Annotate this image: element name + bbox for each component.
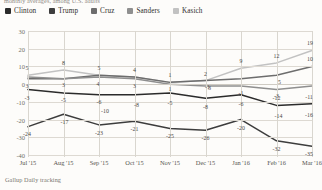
- y-axis-tick-label: 0: [22, 81, 25, 88]
- chart-legend: ClintonTrumpCruzSandersKasich: [5, 7, 203, 15]
- data-point-label: -35: [305, 151, 313, 157]
- data-point-label: -16: [305, 112, 313, 118]
- data-point-label: 4: [97, 81, 100, 87]
- data-point-label: -24: [23, 131, 31, 137]
- data-point-label: -3: [25, 95, 30, 101]
- data-point-label: -5: [61, 97, 66, 103]
- data-point-label: -25: [166, 133, 174, 139]
- y-axis-tick-label: 30: [19, 28, 25, 35]
- x-axis-tick-label: Oct '15: [125, 159, 143, 166]
- data-point-label: 5: [26, 65, 29, 71]
- x-axis-tick-label: Sep '15: [90, 159, 109, 166]
- data-point-label: -10: [101, 108, 109, 114]
- legend-swatch-icon: [91, 8, 97, 14]
- data-point-label: 5: [278, 79, 281, 85]
- data-point-label: -12: [273, 95, 281, 101]
- data-point-label: -26: [202, 135, 210, 141]
- data-point-label: 1: [169, 72, 172, 78]
- legend-label: Trump: [58, 7, 78, 15]
- data-point-label: -20: [237, 125, 245, 131]
- data-point-label: -8: [203, 104, 208, 110]
- legend-item-trump[interactable]: Trump: [49, 7, 78, 15]
- x-axis-tick-label: Jan '16: [232, 159, 250, 166]
- data-point-label: -1: [205, 84, 210, 90]
- data-point-label: 3: [133, 83, 136, 89]
- data-point-label: -11: [305, 94, 313, 100]
- legend-item-sanders[interactable]: Sanders: [127, 7, 159, 15]
- data-point-label: 4: [133, 67, 136, 73]
- data-point-label: 3: [62, 82, 65, 88]
- data-point-label: -32: [273, 146, 281, 152]
- x-axis-tick-label: Dec '15: [196, 159, 215, 166]
- legend-label: Kasich: [182, 7, 203, 15]
- data-point-label: -1: [239, 90, 244, 96]
- legend-item-clinton[interactable]: Clinton: [5, 7, 36, 15]
- x-axis-tick-label: Nov '15: [160, 159, 180, 166]
- data-point-label: -14: [275, 113, 283, 119]
- data-point-label: 10: [307, 56, 313, 62]
- data-point-label: -6: [239, 101, 244, 107]
- legend-swatch-icon: [173, 8, 179, 14]
- data-point-label: 3: [26, 83, 29, 89]
- data-point-label: 5: [98, 65, 101, 71]
- data-point-label: -6: [97, 99, 102, 105]
- legend-swatch-icon: [5, 8, 11, 14]
- legend-item-kasich[interactable]: Kasich: [173, 7, 203, 15]
- gridline-vertical: [99, 31, 100, 157]
- data-point-label: 1: [169, 86, 172, 92]
- y-axis-tick-label: 20: [19, 45, 25, 52]
- data-point-label: -5: [168, 100, 173, 106]
- data-point-label: -8: [134, 102, 139, 108]
- y-axis-tick-label: -20: [16, 116, 25, 123]
- x-axis-tick-label: Mar '16: [302, 159, 322, 166]
- data-point-label: 19: [307, 40, 313, 46]
- data-point-label: -21: [131, 126, 139, 132]
- gridline-vertical: [135, 31, 136, 157]
- data-point-label: 2: [204, 71, 207, 77]
- legend-swatch-icon: [49, 8, 55, 14]
- gridline-vertical: [28, 31, 29, 157]
- y-axis-tick-label: -40: [16, 152, 25, 159]
- legend-swatch-icon: [127, 8, 133, 14]
- data-point-label: 9: [240, 58, 243, 64]
- data-point-label: -17: [61, 119, 69, 125]
- chart-subtitle: monthly averages, among U.S. adults: [4, 0, 100, 4]
- legend-label: Cruz: [100, 7, 114, 15]
- chart-plot-area: 3020100-10-20-30-40Jul '15Aug '15Sep '15…: [28, 31, 312, 155]
- x-axis-tick-label: Aug '15: [53, 159, 73, 166]
- data-point-label: 12: [274, 53, 280, 59]
- legend-label: Clinton: [14, 7, 36, 15]
- legend-label: Sanders: [136, 7, 159, 15]
- gridline-vertical: [64, 31, 65, 157]
- x-axis-tick-label: Feb '16: [267, 159, 286, 166]
- data-point-label: -23: [95, 130, 103, 136]
- legend-item-cruz[interactable]: Cruz: [91, 7, 114, 15]
- y-axis-tick-label: 10: [19, 63, 25, 70]
- data-point-label: 8: [62, 60, 65, 66]
- x-axis-tick-label: Jul '15: [20, 159, 37, 166]
- chart-source-note: Gallup Daily tracking: [5, 176, 61, 183]
